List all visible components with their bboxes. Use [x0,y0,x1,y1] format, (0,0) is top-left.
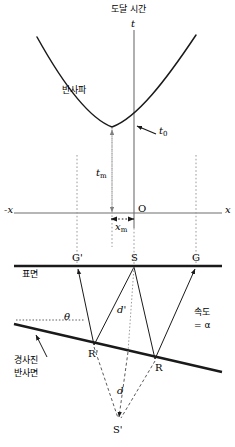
depth-dprime-label: d' [117,304,126,316]
tm-label: tm [96,167,107,180]
station-g-label: G [192,252,200,264]
velocity-label-line1: 속도 [194,307,210,317]
depth-d-label: d [117,385,123,397]
station-s-label: S [131,252,138,264]
x-axis-label-right: x [225,204,231,216]
velocity-label-line2: = α [194,320,210,330]
t0-label: t0 [159,125,168,138]
x-axis-label-left: -x [4,204,13,216]
dip-angle-label: θ [64,311,70,323]
inclined-reflector-line [14,324,222,372]
image-source-label: S' [113,424,123,436]
travel-time-curve [37,35,196,127]
reflector-label-pointer [36,335,47,357]
reflected-wave-label: 반사파 [62,85,86,95]
raypath-s-to-r [134,267,155,359]
xm-label: xm [115,221,127,234]
plot-title: 도달 시간 [111,4,146,14]
reflection-point-rprime-label: R' [88,348,98,360]
raypath-r-to-g [155,269,195,359]
inclined-reflector-label-line2: 반사면 [14,368,38,378]
t0-pointer-arrow [137,126,156,134]
depth-dprime-line [128,267,134,352]
raypath-s-to-rprime [94,267,134,345]
t-axis-label: t [131,18,135,30]
surface-label: 표면 [22,269,38,279]
inclined-reflector-label-line1: 경사진 [14,355,38,365]
origin-label: O [138,203,146,215]
image-ray-r-to-sprime [121,361,155,418]
raypath-rprime-to-gprime [78,269,94,345]
station-gprime-label: G' [72,252,83,264]
reflection-point-r-label: R [155,362,163,374]
seismic-reflection-diagram: 도달 시간 t -x x O 반사파 t0 tm xm G' S G 표면 d'… [0,0,235,447]
